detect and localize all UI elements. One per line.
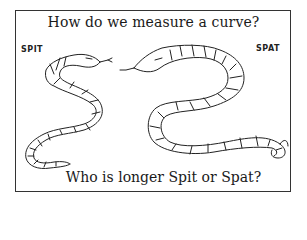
snake-spit-icon — [26, 54, 112, 168]
snake-spat-icon — [120, 45, 288, 158]
caption: Who is longer Spit or Spat? — [0, 169, 307, 185]
